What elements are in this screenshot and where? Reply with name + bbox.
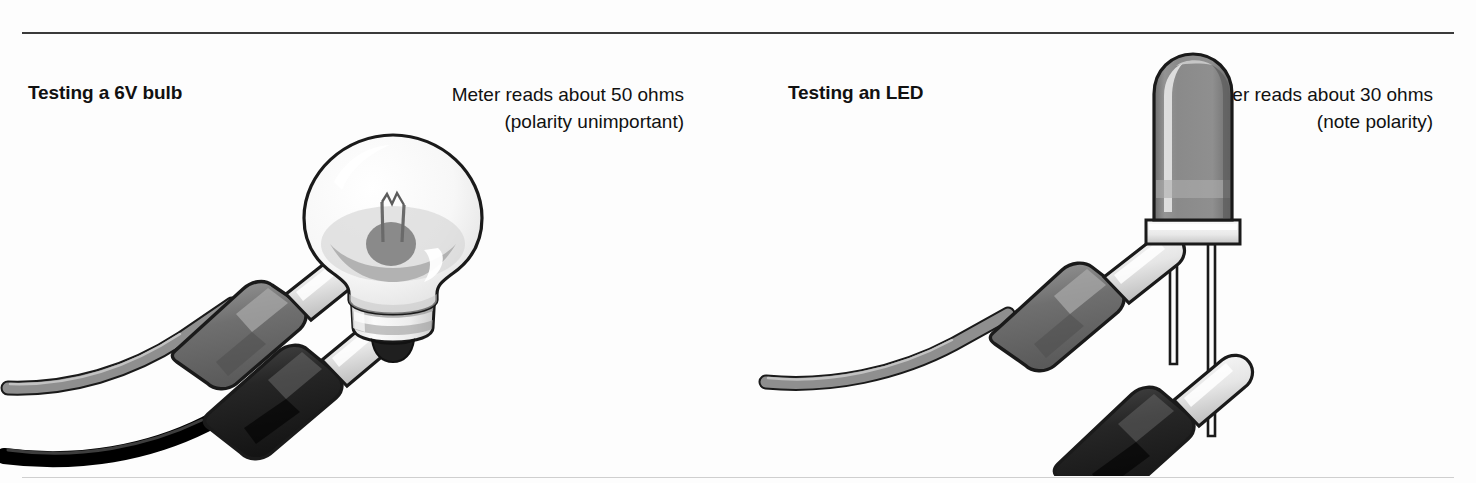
led-dome-body [1154,54,1232,220]
led-flange [1146,220,1240,244]
figure-root: Testing a 6V bulb Meter reads about 50 o… [0,0,1476,483]
panel-testing-led: Testing an LED Meter reads about 30 ohms… [740,32,1476,476]
bulb-illustration [0,32,736,476]
grey-lead-wire [766,314,1008,383]
black-test-probe [1054,355,1252,476]
bottom-rule [22,477,1454,478]
panel-testing-bulb: Testing a 6V bulb Meter reads about 50 o… [0,32,736,476]
grey-test-probe [990,233,1184,370]
led-illustration [740,32,1476,476]
